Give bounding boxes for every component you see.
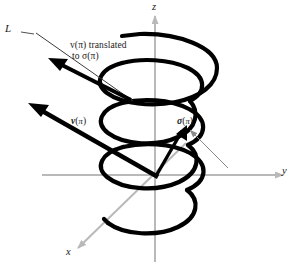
figure-container: z y x L v(π) translated to σ(π) v(π) σ(π…: [0, 0, 297, 270]
position-close-paren: ): [190, 116, 193, 126]
helix-seg-front-1: [100, 63, 176, 104]
annotation-line-2: to σ(π): [70, 51, 127, 62]
helix-top-cap: [122, 34, 140, 36]
helix-seg-back-1: [140, 34, 217, 102]
helix-seg-back-2a: [122, 60, 202, 101]
helix-seg-front-4: [108, 190, 196, 233]
x-axis-label: x: [66, 246, 71, 258]
helix-bottom-cap: [104, 219, 108, 223]
annotation-to-word: to: [72, 51, 82, 61]
annotation-translated-word: translated: [86, 40, 126, 50]
L-leader-stroke: [21, 32, 34, 34]
position-vector-label: σ(π): [177, 116, 193, 127]
helix-figure-svg: [0, 0, 297, 270]
translated-vector-annotation: v(π) translated to σ(π): [70, 40, 127, 62]
annotation-line-1: v(π) translated: [70, 40, 127, 51]
y-axis-label: y: [282, 165, 287, 177]
z-axis-label: z: [152, 1, 156, 13]
velocity-close-paren: ): [83, 116, 86, 126]
tangent-line-label: L: [5, 22, 11, 35]
velocity-vector-arrow: [28, 103, 158, 177]
helix-curve: [100, 34, 217, 233]
velocity-vector-label: v(π): [71, 116, 86, 127]
L-leader-line: [21, 32, 34, 34]
position-vector-shaft: [156, 131, 182, 176]
annotation-close-paren-2: ): [95, 51, 98, 61]
translated-velocity-shaft: [56, 62, 131, 100]
